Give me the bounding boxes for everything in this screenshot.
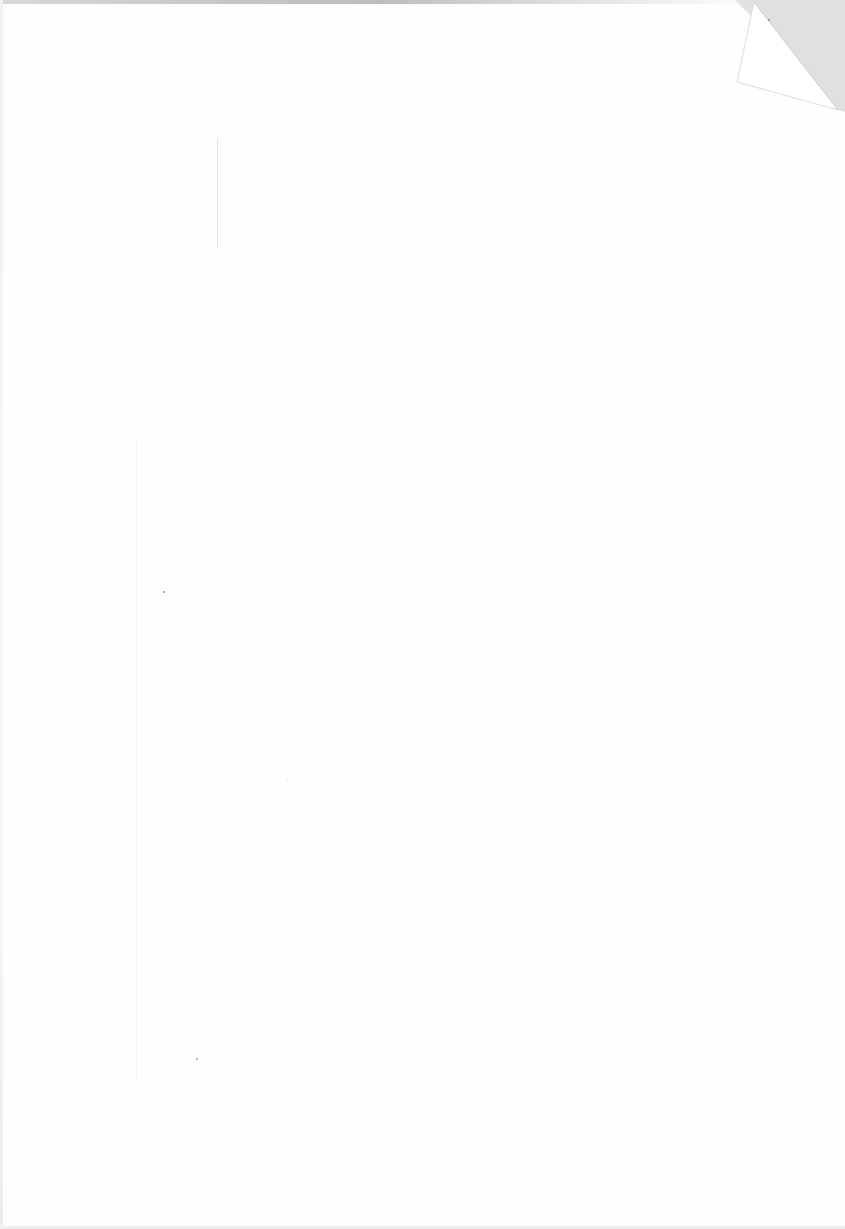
faint-margin-line (136, 440, 137, 1080)
faint-vertical-line (217, 138, 218, 248)
top-edge-smudge (0, 0, 845, 4)
blank-page (0, 0, 845, 1229)
scan-speck (266, 772, 267, 773)
scan-speck (287, 779, 288, 780)
scan-speck (196, 1058, 198, 1060)
folded-corner-icon (732, 0, 845, 112)
scan-speck (163, 591, 165, 593)
left-page-edge (0, 0, 3, 1229)
